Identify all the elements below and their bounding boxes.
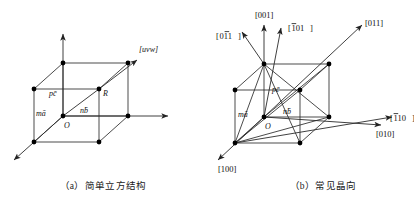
figure-b-label-vector-b: nb̄	[283, 107, 291, 116]
svg-text:101: 101	[292, 23, 305, 33]
figure-a-caption: （a）简单立方结构	[38, 178, 168, 192]
figure-b-caption: （b）常见晶向	[258, 178, 388, 192]
svg-text:]: ]	[310, 23, 313, 33]
arrow-100	[218, 117, 264, 160]
figure-b-label-direction-100: [100]	[218, 164, 237, 174]
svg-text:]: ]	[238, 31, 241, 41]
figure-b-diagram: O mā nb̄ pc̄ [001] [ 101 ] [ 011 ] [011]…	[0, 0, 414, 197]
figure-b-label-vector-a: mā	[238, 110, 248, 119]
figure-b-label-vector-c: pc̄	[271, 85, 280, 94]
figure-b-direction-arrows	[218, 25, 392, 160]
figure-root: —— —— ————	[0, 0, 414, 197]
figure-b-label-origin: O	[265, 122, 271, 131]
figure-b-label-direction-011: [011]	[365, 18, 383, 28]
figure-b-label-direction-001: [001]	[255, 10, 274, 20]
figure-b-label-direction-bar110: [ 110 ]	[390, 113, 414, 123]
arrow-0bar11	[242, 32, 264, 64]
figure-b-label-direction-bar101: [ 101 ]	[288, 23, 313, 33]
figure-b-label-direction-010: [010]	[376, 129, 395, 139]
svg-text:011: 011	[220, 31, 232, 41]
svg-text:110: 110	[394, 113, 406, 123]
arrow-010	[264, 117, 381, 125]
figure-b-label-direction-0bar11: [ 011 ]	[216, 31, 241, 41]
